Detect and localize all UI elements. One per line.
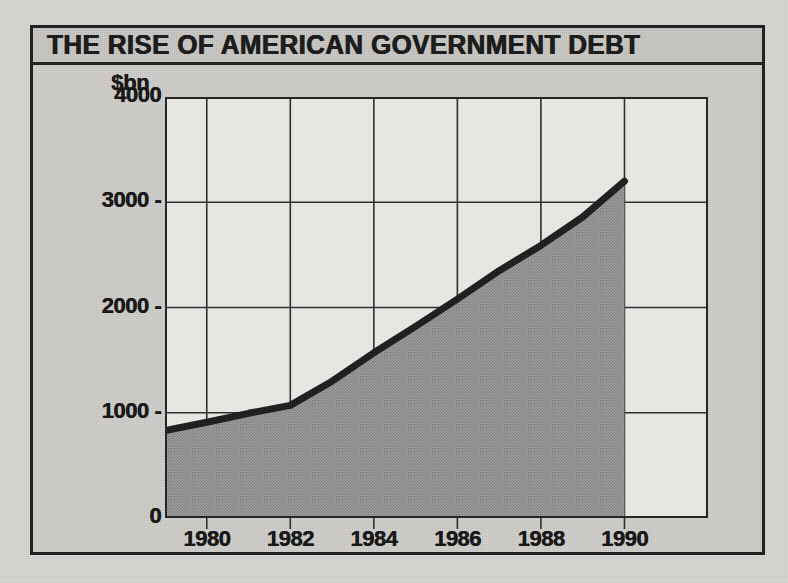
y-tick-label: 0 xyxy=(149,503,161,529)
y-tick-label: 3000 - xyxy=(102,187,161,213)
chart-plot-svg xyxy=(165,97,708,518)
x-tick-label: 1982 xyxy=(267,526,314,552)
x-tick-label: 1986 xyxy=(434,526,481,552)
y-axis-tick-labels: 01000 -2000 -3000 -4000 xyxy=(73,28,161,558)
x-tick-label: 1984 xyxy=(350,526,397,552)
plot-area xyxy=(165,97,708,518)
x-tick-label: 1990 xyxy=(601,526,648,552)
x-axis-tick-labels: 198019821984198619881990 xyxy=(165,526,708,562)
x-tick-label: 1988 xyxy=(517,526,564,552)
y-tick-label: 1000 - xyxy=(102,398,161,424)
y-tick-label: 2000 - xyxy=(102,293,161,319)
x-tick-label: 1980 xyxy=(183,526,230,552)
y-tick-label: 4000 xyxy=(114,82,161,108)
chart-figure: THE RISE OF AMERICAN GOVERNMENT DEBT $bn… xyxy=(30,25,765,555)
